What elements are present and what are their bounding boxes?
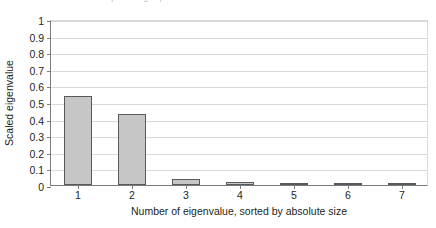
bar [64,96,92,185]
x-axis-tick-label: 7 [399,190,405,201]
y-axis-tick-label: 0.5 [29,99,44,110]
y-axis-tick-label: 0.6 [29,82,44,93]
gridline [51,121,427,122]
x-axis-tick-label: 5 [291,190,297,201]
y-axis-title: Scaled eigenvalue [4,60,15,146]
y-axis-tick-label: 0.4 [29,115,44,126]
gridline [51,104,427,105]
x-axis-title: Number of eigenvalue, sorted by absolute… [131,206,347,217]
bar [226,182,254,185]
y-axis-tick [47,154,51,155]
y-axis-tick [47,21,51,22]
gridline [51,154,427,155]
bar [118,114,146,185]
y-axis-tick-label: 0.7 [29,66,44,77]
x-axis-tick-label: 3 [183,190,189,201]
y-axis-tick [47,104,51,105]
bar [172,179,200,185]
cut-off-caption-fragment: cut-off descenders of preceding caption … [30,0,410,5]
y-axis-tick-label: 0 [38,182,44,193]
bar [280,183,308,185]
caption-fragment-text: cut-off descenders of preceding caption … [30,0,410,2]
y-axis-tick [47,71,51,72]
y-axis-tick [47,87,51,88]
x-axis-tick-label: 2 [129,190,135,201]
y-axis-tick [47,187,51,188]
eigenvalue-scree-chart: cut-off descenders of preceding caption … [0,0,436,228]
y-axis-tick-label: 0.3 [29,132,44,143]
plot-area: 00.10.20.30.40.50.60.70.80.91 1234567 [50,20,428,186]
bar [388,183,416,185]
y-axis-tick-label: 0.1 [29,165,44,176]
y-axis-tick [47,38,51,39]
x-axis-tick-label: 1 [75,190,81,201]
gridline [51,170,427,171]
y-axis-tick-label: 0.9 [29,32,44,43]
gridline [51,137,427,138]
y-axis-tick [47,170,51,171]
bar [334,183,362,185]
gridline [51,71,427,72]
y-axis-tick [47,121,51,122]
gridline [51,21,427,22]
x-axis-tick-label: 4 [237,190,243,201]
y-axis-tick [47,137,51,138]
y-axis-tick-label: 0.8 [29,49,44,60]
y-axis-tick [47,54,51,55]
y-axis-tick-label: 0.2 [29,149,44,160]
gridline [51,38,427,39]
y-axis-tick-label: 1 [38,16,44,27]
gridline [51,87,427,88]
x-axis-tick-label: 6 [345,190,351,201]
gridline [51,54,427,55]
